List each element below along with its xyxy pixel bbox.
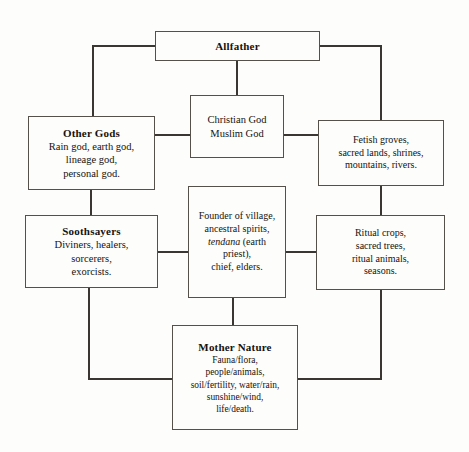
- connector-soothsayers-down: [88, 288, 90, 380]
- connector-founder-to-mother-nature: [232, 297, 234, 326]
- node-other-gods-title: Other Gods: [63, 126, 120, 140]
- node-other-gods-body: Rain god, earth god, lineage god, person…: [49, 140, 134, 180]
- node-allfather-title: Allfather: [215, 39, 260, 53]
- connector-ritual-crops-down: [380, 290, 382, 380]
- connector-allfather-left-down: [92, 45, 94, 116]
- node-abrahamic-gods[interactable]: Christian God Muslim God: [190, 95, 284, 158]
- connector-soothsayers-to-founder: [157, 251, 189, 253]
- node-soothsayers[interactable]: Soothsayers Diviners, healers, sorcerers…: [25, 215, 158, 288]
- node-other-gods[interactable]: Other Gods Rain god, earth god, lineage …: [28, 116, 155, 190]
- node-ritual-crops[interactable]: Ritual crops, sacred trees, ritual anima…: [316, 215, 445, 290]
- connector-allfather-to-abrahamic: [236, 61, 238, 95]
- connector-allfather-right-down: [380, 45, 382, 120]
- node-ritual-crops-body: Ritual crops, sacred trees, ritual anima…: [352, 227, 409, 278]
- node-mother-nature-body: Fauna/flora, people/animals, soil/fertil…: [191, 354, 280, 414]
- node-soothsayers-title: Soothsayers: [62, 224, 120, 238]
- connector-ritual-crops-to-mother-nature: [297, 378, 382, 380]
- founder-body-pre: Founder of village, ancestral spirits,: [199, 210, 275, 234]
- node-fetish-groves[interactable]: Fetish groves, sacred lands, shrines, mo…: [318, 120, 444, 186]
- connector-allfather-left-arm: [92, 45, 156, 47]
- node-mother-nature[interactable]: Mother Nature Fauna/flora, people/animal…: [172, 325, 298, 430]
- node-mother-nature-title: Mother Nature: [198, 340, 271, 354]
- connector-soothsayers-to-mother-nature: [88, 378, 173, 380]
- node-soothsayers-body: Diviners, healers, sorcerers, exorcists.: [55, 238, 129, 278]
- connector-other-gods-to-soothsayers: [90, 189, 92, 216]
- flow-diagram-canvas: Allfather Christian God Muslim God Other…: [0, 0, 469, 452]
- node-allfather[interactable]: Allfather: [155, 31, 320, 61]
- node-founder-of-village-body: Founder of village, ancestral spirits, t…: [199, 210, 275, 274]
- connector-founder-to-ritual-crops: [285, 251, 317, 253]
- founder-term-tendana: tendana: [208, 236, 240, 247]
- connector-fetish-to-ritual-crops: [380, 185, 382, 216]
- node-fetish-groves-body: Fetish groves, sacred lands, shrines, mo…: [339, 134, 424, 172]
- node-founder-of-village[interactable]: Founder of village, ancestral spirits, t…: [188, 186, 286, 298]
- connector-other-gods-to-abrahamic: [154, 134, 191, 136]
- connector-allfather-right-arm: [319, 45, 382, 47]
- node-abrahamic-gods-body: Christian God Muslim God: [207, 113, 266, 140]
- connector-abrahamic-to-fetish: [283, 134, 319, 136]
